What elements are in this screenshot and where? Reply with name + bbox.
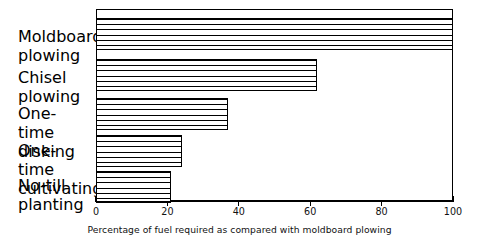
x-tick-label-20: 20 [161, 206, 173, 217]
x-tick-0 [95, 196, 96, 202]
x-tick-label-100: 100 [444, 206, 462, 217]
category-label-chisel-plowing: Chisel plowing [18, 68, 80, 106]
bar-moldboard-plowing [96, 18, 453, 50]
bar-chart: Moldboard plowing Chisel plowing One-tim… [0, 0, 479, 245]
x-tick-label-40: 40 [233, 206, 245, 217]
x-tick-label-0: 0 [93, 206, 99, 217]
category-label-moldboard-plowing: Moldboard plowing [18, 27, 102, 65]
category-axis-labels: Moldboard plowing Chisel plowing One-tim… [0, 0, 92, 245]
category-label-no-till-planting: No-till planting [18, 176, 84, 214]
x-tick-label-80: 80 [375, 206, 387, 217]
x-tick-label-60: 60 [304, 206, 316, 217]
bar-no-till-planting [96, 171, 171, 203]
x-axis-line [96, 201, 453, 202]
bar-one-time-disking [96, 98, 228, 130]
x-tick-100 [452, 196, 453, 202]
bar-chisel-plowing [96, 59, 317, 91]
bars-layer [96, 9, 453, 201]
bar-one-time-cultivating [96, 135, 182, 167]
x-axis-title: Percentage of fuel required as compared … [0, 224, 479, 235]
